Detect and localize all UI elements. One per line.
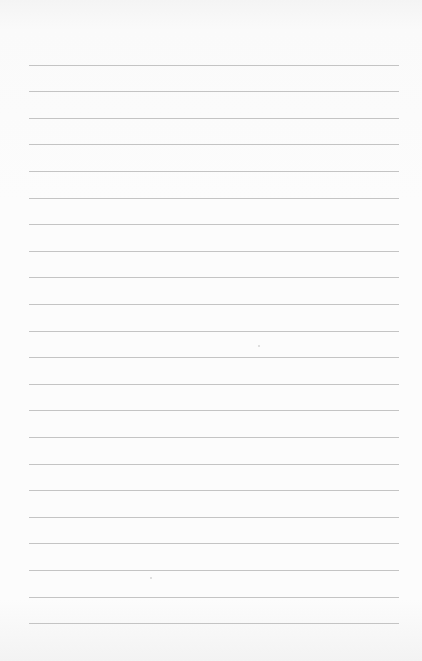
ruled-line: [29, 171, 399, 172]
ruled-line: [29, 224, 399, 225]
ruled-line: [29, 570, 399, 571]
ruled-line: [29, 517, 399, 518]
ruled-line: [29, 384, 399, 385]
ruled-line: [29, 331, 399, 332]
ruled-line: [29, 543, 399, 544]
ruled-line: [29, 277, 399, 278]
ruled-line: [29, 490, 399, 491]
ruled-line: [29, 65, 399, 66]
ruled-line: [29, 410, 399, 411]
ruled-line: [29, 144, 399, 145]
ruled-line: [29, 623, 399, 624]
paper-speck: [150, 577, 152, 579]
ruled-line: [29, 357, 399, 358]
ruled-line: [29, 437, 399, 438]
lined-paper-sheet: [0, 0, 422, 661]
paper-speck: [258, 345, 260, 347]
ruled-line: [29, 198, 399, 199]
ruled-line: [29, 597, 399, 598]
ruled-line: [29, 91, 399, 92]
ruled-line: [29, 464, 399, 465]
ruled-line: [29, 304, 399, 305]
ruled-line: [29, 118, 399, 119]
ruled-line: [29, 251, 399, 252]
